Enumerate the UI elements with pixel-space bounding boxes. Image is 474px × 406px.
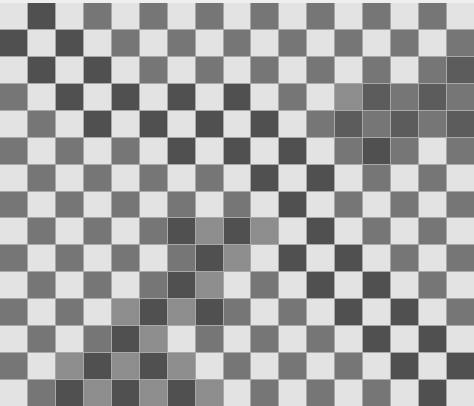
board-cell xyxy=(112,380,139,406)
board-cell xyxy=(335,326,362,352)
board-cell xyxy=(251,192,278,218)
board-cell xyxy=(419,192,446,218)
board-cell xyxy=(391,30,418,56)
board-cell xyxy=(391,165,418,191)
board-cell xyxy=(168,272,195,298)
board-cell xyxy=(140,3,167,29)
board-cell xyxy=(447,218,474,244)
board-cell xyxy=(140,57,167,83)
board-cell xyxy=(112,57,139,83)
board-cell xyxy=(84,111,111,137)
board-cell xyxy=(84,138,111,164)
board-cell xyxy=(335,299,362,325)
board-cell xyxy=(391,353,418,379)
board-cell xyxy=(0,111,27,137)
board-cell xyxy=(84,57,111,83)
board-cell xyxy=(279,3,306,29)
board-cell xyxy=(251,138,278,164)
board-cell xyxy=(363,3,390,29)
board-cell xyxy=(56,353,83,379)
board-cell xyxy=(391,326,418,352)
board-cell xyxy=(112,299,139,325)
board-cell xyxy=(84,353,111,379)
board-cell xyxy=(335,84,362,110)
board-cell xyxy=(391,245,418,271)
board-cell xyxy=(56,326,83,352)
board-cell xyxy=(279,165,306,191)
board-cell xyxy=(419,380,446,406)
board-cell xyxy=(112,84,139,110)
board-cell xyxy=(307,245,334,271)
board-cell xyxy=(196,30,223,56)
board-cell xyxy=(112,326,139,352)
board-cell xyxy=(363,218,390,244)
board-cell xyxy=(363,84,390,110)
board-cell xyxy=(224,84,251,110)
board-cell xyxy=(251,165,278,191)
board-cell xyxy=(0,326,27,352)
board-cell xyxy=(279,299,306,325)
board-cell xyxy=(0,245,27,271)
board-cell xyxy=(168,84,195,110)
board-cell xyxy=(279,218,306,244)
board-cell xyxy=(84,272,111,298)
board-cell xyxy=(251,3,278,29)
board-cell xyxy=(140,353,167,379)
board-cell xyxy=(419,138,446,164)
board-cell xyxy=(140,245,167,271)
board-cell xyxy=(224,57,251,83)
board-cell xyxy=(251,111,278,137)
board-cell xyxy=(335,165,362,191)
board-cell xyxy=(196,380,223,406)
board-cell xyxy=(391,272,418,298)
board-cell xyxy=(307,84,334,110)
board-cell xyxy=(168,299,195,325)
board-cell xyxy=(168,192,195,218)
board-cell xyxy=(0,84,27,110)
board-cell xyxy=(140,84,167,110)
board-cell xyxy=(279,30,306,56)
board-cell xyxy=(419,3,446,29)
board-cell xyxy=(335,57,362,83)
board-cell xyxy=(419,57,446,83)
board-cell xyxy=(196,218,223,244)
board-cell xyxy=(168,218,195,244)
board-cell xyxy=(363,192,390,218)
board-cell xyxy=(0,138,27,164)
board-cell xyxy=(56,299,83,325)
board-cell xyxy=(196,353,223,379)
board-cell xyxy=(224,353,251,379)
board-cell xyxy=(391,192,418,218)
board-cell xyxy=(196,272,223,298)
board-cell xyxy=(84,380,111,406)
board-cell xyxy=(335,245,362,271)
board-cell xyxy=(84,326,111,352)
board-cell xyxy=(140,111,167,137)
board-cell xyxy=(224,30,251,56)
board-cell xyxy=(391,218,418,244)
board-cell xyxy=(28,272,55,298)
board-cell xyxy=(307,272,334,298)
board-cell xyxy=(0,353,27,379)
board-cell xyxy=(28,245,55,271)
board-cell xyxy=(28,353,55,379)
board-cell xyxy=(419,165,446,191)
board-cell xyxy=(28,3,55,29)
board-cell xyxy=(56,165,83,191)
board-cell xyxy=(391,3,418,29)
board-cell xyxy=(56,138,83,164)
board-cell xyxy=(447,165,474,191)
board-cell xyxy=(196,57,223,83)
board-cell xyxy=(391,380,418,406)
board-cell xyxy=(363,138,390,164)
board-cell xyxy=(112,165,139,191)
board-cell xyxy=(307,30,334,56)
board-cell xyxy=(419,353,446,379)
board-cell xyxy=(56,218,83,244)
board-cell xyxy=(112,218,139,244)
board-cell xyxy=(140,165,167,191)
board-cell xyxy=(56,192,83,218)
board-cell xyxy=(56,272,83,298)
board-cell xyxy=(279,353,306,379)
board-cell xyxy=(168,3,195,29)
